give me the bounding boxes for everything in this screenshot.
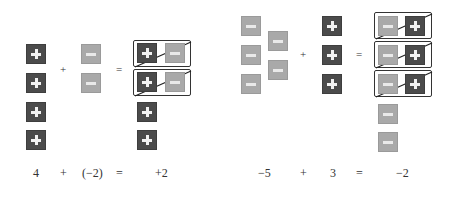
positive-tile: [26, 44, 46, 64]
positive-tile: [137, 130, 157, 150]
negative-tile: [241, 45, 261, 65]
positive-tile: [137, 102, 157, 122]
negative-tile: [241, 74, 261, 94]
positive-tile: [137, 43, 157, 63]
equation-operator: +: [300, 166, 307, 180]
equation-result: −2: [396, 166, 409, 180]
negative-tile: [165, 43, 185, 63]
negative-tile: [241, 16, 261, 36]
negative-tile: [81, 44, 101, 64]
negative-tile: [378, 104, 398, 124]
positive-tile: [322, 16, 342, 36]
equation-term-a: 4: [33, 166, 39, 180]
positive-tile: [137, 72, 157, 92]
negative-tile: [378, 16, 398, 36]
plus-operator: +: [60, 63, 66, 75]
positive-tile: [26, 130, 46, 150]
positive-tile: [322, 45, 342, 65]
equation-equals: =: [116, 166, 123, 180]
equation-result: +2: [155, 166, 168, 180]
positive-tile: [322, 74, 342, 94]
negative-tile: [378, 132, 398, 152]
positive-tile: [26, 102, 46, 122]
negative-tile: [378, 45, 398, 65]
equals-operator: =: [116, 63, 122, 75]
negative-tile: [268, 31, 288, 51]
positive-tile: [26, 73, 46, 93]
negative-tile: [81, 73, 101, 93]
equation-equals: =: [356, 166, 363, 180]
equals-operator: =: [356, 48, 362, 60]
positive-tile: [405, 16, 425, 36]
positive-tile: [405, 74, 425, 94]
positive-tile: [405, 45, 425, 65]
equation-term-b: (−2): [82, 166, 103, 180]
negative-tile: [165, 72, 185, 92]
plus-operator: +: [300, 48, 306, 60]
equation-operator: +: [60, 166, 67, 180]
negative-tile: [378, 74, 398, 94]
negative-tile: [268, 60, 288, 80]
equation-term-b: 3: [330, 166, 336, 180]
equation-term-a: −5: [258, 166, 271, 180]
